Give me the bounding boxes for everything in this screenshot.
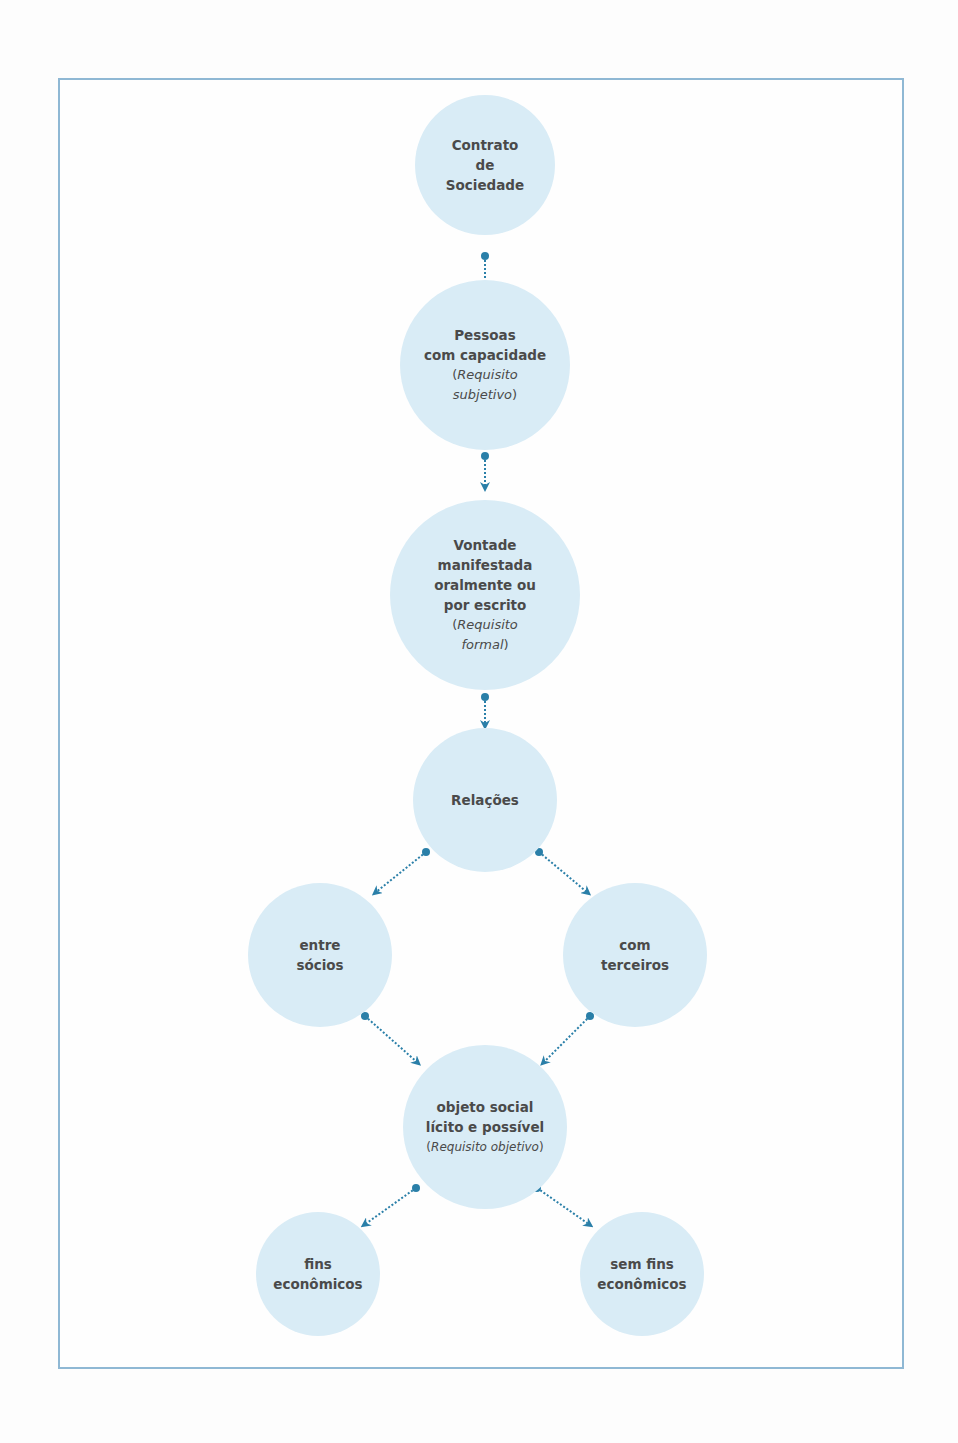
paren-close: )	[504, 637, 509, 652]
node-label: sócios	[296, 955, 343, 975]
node-label: com capacidade	[424, 345, 546, 365]
node-vontade-manifestada: Vontade manifestada oralmente ou por esc…	[390, 500, 580, 690]
node-pessoas-com-capacidade: Pessoas com capacidade (Requisito subjet…	[400, 280, 570, 450]
node-objeto-social: objeto social lícito e possível (Requisi…	[403, 1045, 567, 1209]
node-label: Pessoas	[454, 325, 516, 345]
node-entre-socios: entre sócios	[248, 883, 392, 1027]
node-sublabel: formal)	[461, 635, 508, 655]
edge-relacoes-entre	[375, 852, 426, 893]
node-label: objeto social	[437, 1097, 534, 1117]
node-sem-fins-economicos: sem fins econômicos	[580, 1212, 704, 1336]
edge-objeto-fins	[364, 1188, 416, 1225]
node-label: por escrito	[444, 595, 527, 615]
requirement-type: formal	[461, 637, 503, 652]
node-sublabel: subjetivo)	[453, 385, 517, 405]
edge-start-dot	[481, 252, 489, 260]
node-label: oralmente ou	[434, 575, 536, 595]
edge-start-dot	[422, 848, 430, 856]
requirement-label: Requisito	[457, 367, 518, 382]
node-label: econômicos	[273, 1274, 362, 1294]
node-sublabel: (Requisito	[452, 365, 518, 385]
edge-relacoes-terceiros	[539, 852, 588, 893]
node-relacoes: Relações	[413, 728, 557, 872]
node-label: Relações	[451, 790, 519, 810]
requirement-label: Requisito	[457, 617, 518, 632]
edge-entre-objeto	[365, 1016, 418, 1063]
node-label: sem fins	[610, 1254, 674, 1274]
paren-close: )	[539, 1140, 544, 1154]
node-label: econômicos	[597, 1274, 686, 1294]
node-label: fins	[304, 1254, 332, 1274]
node-label: Contrato	[452, 135, 519, 155]
node-label: Vontade	[454, 535, 517, 555]
node-contrato-de-sociedade: Contrato de Sociedade	[415, 95, 555, 235]
requirement-label: Requisito objetivo	[431, 1140, 539, 1154]
node-com-terceiros: com terceiros	[563, 883, 707, 1027]
node-sublabel: (Requisito objetivo)	[426, 1137, 543, 1157]
node-sublabel: (Requisito	[452, 615, 518, 635]
edge-start-dot	[412, 1184, 420, 1192]
node-label: de	[476, 155, 495, 175]
edge-start-dot	[481, 693, 489, 701]
node-fins-economicos: fins econômicos	[256, 1212, 380, 1336]
node-label: entre	[299, 935, 340, 955]
paren-close: )	[512, 387, 517, 402]
node-label: manifestada	[438, 555, 533, 575]
node-label: com	[619, 935, 650, 955]
node-label: terceiros	[601, 955, 669, 975]
node-label: Sociedade	[446, 175, 524, 195]
node-label: lícito e possível	[426, 1117, 544, 1137]
requirement-type: subjetivo	[453, 387, 512, 402]
edge-start-dot	[481, 452, 489, 460]
edge-terceiros-objeto	[543, 1016, 590, 1063]
edge-objeto-semfins	[537, 1188, 590, 1225]
